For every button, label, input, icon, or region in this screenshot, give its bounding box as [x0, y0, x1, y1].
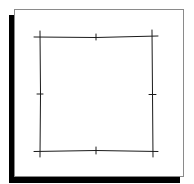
square-diagram	[0, 0, 194, 184]
figure-canvas	[0, 0, 194, 184]
right-edge	[152, 30, 153, 157]
